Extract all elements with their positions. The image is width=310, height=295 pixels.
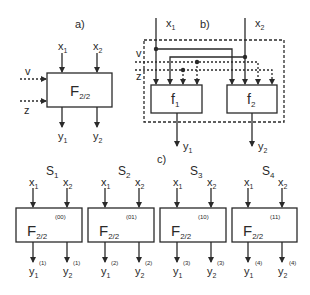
s4-code: (11) (270, 214, 280, 220)
s2-x2: x2 (135, 176, 145, 190)
s4-x1: x1 (244, 176, 254, 190)
a-x2-label: x2 (93, 40, 103, 54)
s1-y2-sup: (1) (73, 260, 80, 266)
s2-block: F2/2 (99, 222, 120, 241)
s4-y1: y1 (244, 265, 254, 279)
panel-b-label: b) (200, 18, 210, 30)
a-y1-label: y1 (58, 130, 68, 144)
s1-x1: x1 (29, 176, 39, 190)
automaton-diagram: a) x1 x2 v z F2/2 y1 y2 b) x1 x2 v z f1 … (0, 0, 310, 295)
s4-x2: x2 (278, 176, 288, 190)
state-s2-block (88, 208, 154, 242)
s4-y2-sup: (4) (289, 260, 296, 266)
s4-label: S4 (262, 164, 275, 180)
s3-code: (10) (198, 214, 209, 220)
s4-y1-sup: (4) (255, 260, 262, 266)
s1-y1-sup: (1) (39, 260, 46, 266)
s3-block: F2/2 (171, 222, 192, 241)
b-v-label: v (136, 47, 142, 59)
a-y2-label: y2 (93, 130, 103, 144)
s2-y2-sup: (2) (145, 260, 152, 266)
s1-y1: y1 (29, 265, 39, 279)
b-x2-label: x2 (255, 17, 265, 31)
a-v-label: v (25, 65, 31, 77)
b-f1-label: f1 (171, 91, 180, 109)
state-s3-block (160, 208, 226, 242)
panel-c (16, 188, 297, 262)
panel-b (135, 18, 284, 146)
dashed-boundary (144, 40, 284, 122)
s1-label: S1 (46, 164, 59, 180)
a-block-label: F2/2 (70, 82, 91, 101)
s2-x1: x1 (101, 176, 111, 190)
s2-y1: y1 (101, 265, 111, 279)
s1-y2: y2 (63, 265, 73, 279)
s3-x1: x1 (173, 176, 183, 190)
b-y1-label: y1 (183, 140, 193, 154)
block-f22 (47, 73, 112, 107)
s2-code: (01) (126, 214, 137, 220)
state-s1-block (16, 208, 82, 242)
s2-y2: y2 (135, 265, 145, 279)
b-y2-label: y2 (258, 140, 268, 154)
s4-block: F2/2 (243, 222, 264, 241)
s3-label: S3 (190, 164, 203, 180)
s1-x2: x2 (63, 176, 73, 190)
panel-a-label: a) (75, 18, 85, 30)
s1-code: (00) (55, 214, 66, 220)
x1-to-f2 (156, 49, 232, 84)
panel-c-label: c) (157, 153, 166, 165)
b-x1-label: x1 (166, 17, 176, 31)
s1-block: F2/2 (27, 222, 48, 241)
s3-y2: y2 (207, 265, 217, 279)
s2-label: S2 (118, 164, 131, 180)
s3-y2-sup: (3) (217, 260, 224, 266)
b-f2-label: f2 (247, 91, 256, 109)
a-x1-label: x1 (58, 40, 68, 54)
s3-y1-sup: (3) (183, 260, 190, 266)
s4-y2: y2 (278, 265, 288, 279)
a-z-label: z (24, 104, 30, 116)
panel-a (20, 53, 112, 127)
junction-dots (154, 47, 247, 72)
s3-y1: y1 (173, 265, 183, 279)
b-z-label: z (136, 70, 142, 82)
s3-x2: x2 (207, 176, 217, 190)
s2-y1-sup: (2) (111, 260, 118, 266)
v-to-f2 (135, 62, 258, 84)
state-s4-block (232, 208, 297, 242)
